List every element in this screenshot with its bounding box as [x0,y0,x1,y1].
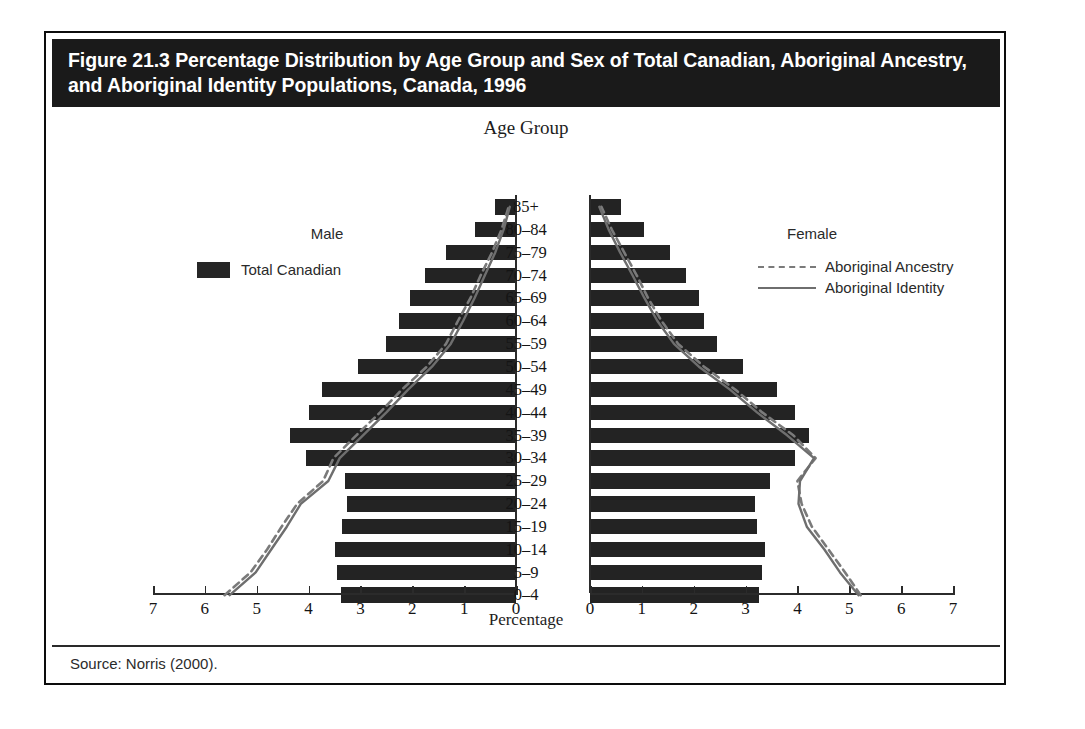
x-axis-tick [849,586,851,595]
bar-male [337,565,516,581]
x-axis-tick [694,586,696,595]
x-axis-tick [360,586,362,595]
x-axis-tick [257,586,259,595]
bar-female [590,290,699,306]
age-group-label: 10–14 [500,540,552,560]
bar-male [358,359,516,375]
figure-title: Figure 21.3 Percentage Distribution by A… [68,48,984,98]
center-rule-female [589,195,591,593]
line-aboriginal-identity-male [230,207,510,595]
bar-male [309,405,516,421]
x-axis-tick [412,586,414,595]
age-group-label: 15–19 [500,517,552,537]
bar-male [290,428,516,444]
age-group-label: 85+ [500,197,552,217]
age-group-label: 55–59 [500,334,552,354]
bar-female [590,450,795,466]
bar-female [590,519,757,535]
x-axis-tick [901,586,903,595]
source-note: Source: Norris (2000). [70,655,218,672]
x-axis-tick [797,586,799,595]
x-axis-tick [953,586,955,595]
bar-male [306,450,516,466]
age-group-label: 20–24 [500,494,552,514]
bar-female [590,565,762,581]
bar-male [322,382,516,398]
source-divider [52,645,1000,647]
bar-male [345,473,516,489]
age-group-label: 25–29 [500,471,552,491]
bar-female [590,405,795,421]
bar-female [590,222,644,238]
x-axis-line [153,593,516,595]
age-group-label: 35–39 [500,426,552,446]
age-group-label: 5–9 [500,563,552,583]
figure-container: Figure 21.3 Percentage Distribution by A… [44,31,1006,685]
age-group-label: 40–44 [500,403,552,423]
bar-female [590,199,621,215]
age-group-label: 65–69 [500,288,552,308]
bar-female [590,313,704,329]
bar-female [590,382,777,398]
age-group-label: 45–49 [500,380,552,400]
bar-female [590,268,686,284]
bar-male [342,519,516,535]
bar-female [590,473,770,489]
x-axis-tick [309,586,311,595]
bar-male [347,496,516,512]
x-axis-line [590,593,953,595]
x-axis-tick [746,586,748,595]
age-group-label: 30–34 [500,448,552,468]
bar-female [590,245,670,261]
line-aboriginal-ancestry-female [601,207,860,595]
bar-female [590,428,809,444]
age-group-label: 80–84 [500,220,552,240]
line-aboriginal-identity-female [599,207,858,595]
bar-female [590,336,717,352]
age-group-label: 60–64 [500,311,552,331]
age-group-labels: 0–45–910–1415–1920–2425–2930–3435–3940–4… [500,113,552,638]
bar-female [590,542,765,558]
x-axis-tick [464,586,466,595]
figure-title-banner: Figure 21.3 Percentage Distribution by A… [52,39,1000,107]
age-group-label: 0–4 [500,585,552,605]
bar-male [335,542,517,558]
x-axis-tick [205,586,207,595]
age-group-label: 50–54 [500,357,552,377]
bar-male [399,313,516,329]
bar-male [386,336,516,352]
x-axis-tick [642,586,644,595]
bar-female [590,496,755,512]
age-group-label: 75–79 [500,243,552,263]
bar-female [590,359,743,375]
x-axis-tick [153,586,155,595]
chart-plot-area: Age Group Male Female Total Canadian Abo… [52,113,1000,638]
x-axis-title: Percentage [52,610,1000,630]
line-aboriginal-ancestry-male [225,207,509,595]
age-group-label: 70–74 [500,266,552,286]
